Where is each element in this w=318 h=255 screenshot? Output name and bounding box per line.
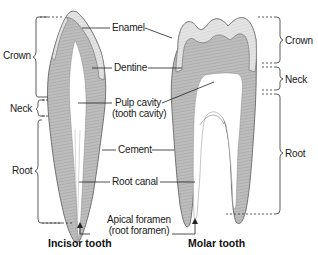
- region-label-neck-left: Neck: [10, 103, 32, 114]
- part-label-apical-foramen: Apical foramen (root foramen): [104, 214, 174, 236]
- part-label-cement: Cement: [118, 144, 152, 155]
- apical-foramen-label: Apical foramen: [104, 214, 174, 225]
- region-label-root-left: Root: [12, 165, 32, 176]
- region-label-crown-right: Crown: [285, 35, 313, 46]
- part-label-enamel: Enamel: [112, 22, 145, 33]
- tooth-anatomy-diagram: Crown Neck Root Crown Neck Root Enamel D…: [0, 0, 318, 255]
- region-label-neck-right: Neck: [285, 74, 307, 85]
- molar-pulp-cavity: [193, 73, 242, 219]
- pulp-cavity-sublabel: (tooth cavity): [112, 108, 164, 119]
- incisor-tooth-title: Incisor tooth: [48, 237, 112, 249]
- part-label-root-canal: Root canal: [112, 176, 158, 187]
- region-label-root-right: Root: [285, 148, 305, 159]
- molar-tooth-title: Molar tooth: [188, 237, 245, 249]
- part-label-pulp-cavity: Pulp cavity (tooth cavity): [112, 97, 164, 119]
- molar-tooth: [171, 18, 256, 227]
- part-label-dentine: Dentine: [114, 62, 147, 73]
- region-label-crown-left: Crown: [3, 50, 31, 61]
- pulp-cavity-label: Pulp cavity: [112, 97, 164, 108]
- apical-foramen-sublabel: (root foramen): [104, 225, 174, 236]
- incisor-tooth: [48, 11, 106, 243]
